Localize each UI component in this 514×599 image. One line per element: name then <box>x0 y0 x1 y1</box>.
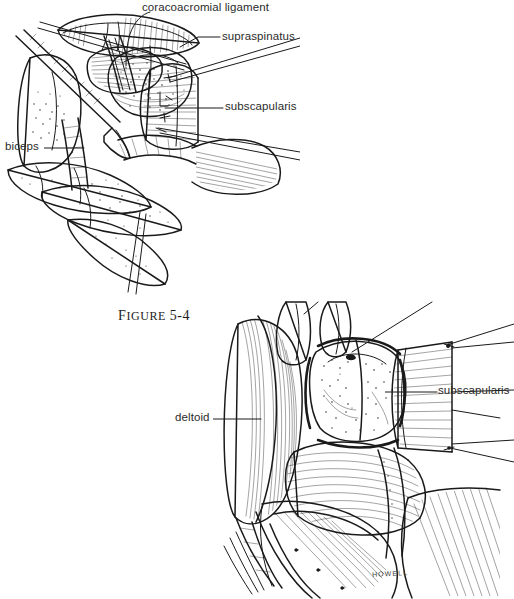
deep-soft-tissue <box>118 135 196 164</box>
chest-wall-hatching <box>414 487 514 596</box>
figure-bottom-illustration <box>200 300 514 599</box>
biceps-tendon <box>62 118 88 190</box>
humeral-head-stipple-b <box>321 354 393 432</box>
suture-lines-lower <box>158 128 300 160</box>
acromion-outline <box>58 15 199 57</box>
label-subscapularis-bottom: subscapularis <box>438 384 510 397</box>
illustration-page: coracoacromial ligament supraspinatus su… <box>0 0 514 599</box>
humeral-head-stipple <box>110 62 185 110</box>
humerus-shaft-stipple <box>32 91 64 140</box>
proximal-humerus-shaft <box>18 55 81 172</box>
lower-muscle-hatching <box>276 511 386 592</box>
label-coracoacromial-ligament: coracoacromial ligament <box>142 1 269 14</box>
caption-word: IGURE <box>126 309 166 323</box>
label-supraspinatus: supraspinatus <box>222 30 295 43</box>
label-deltoid: deltoid <box>175 411 210 424</box>
finger-middle <box>42 186 182 236</box>
cephalic-vein-strip <box>378 448 405 558</box>
figure-caption: FIGURE 5-4 <box>118 308 190 324</box>
retractor-blade-top <box>320 302 351 357</box>
suture-lines-upper <box>168 38 300 82</box>
label-subscapularis-top: subscapularis <box>225 100 297 113</box>
deltoid-muscle <box>224 316 302 524</box>
pectoralis-hatching <box>287 453 420 528</box>
figure-top-illustration <box>0 0 300 300</box>
label-biceps: biceps <box>5 140 39 153</box>
skin-edge-upper <box>276 302 310 365</box>
vertical-instrument-shaft <box>128 212 146 294</box>
caption-number: 5-4 <box>170 308 190 323</box>
suture-stitches <box>156 74 176 132</box>
supraspinatus-hatching <box>92 52 154 90</box>
subscapularis-flap <box>392 342 452 452</box>
lower-wound-edge <box>256 501 397 598</box>
thumb <box>68 219 168 285</box>
